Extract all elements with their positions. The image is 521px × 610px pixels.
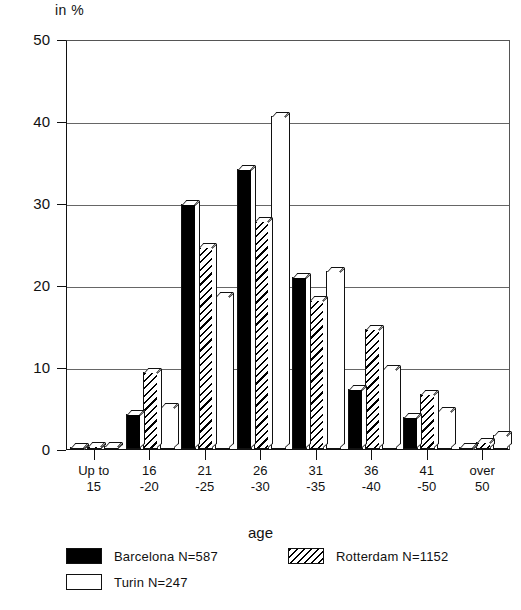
bar-turin-4	[326, 271, 341, 449]
x-axis-tick	[316, 450, 317, 460]
y-axis-tick	[57, 286, 66, 287]
bar-turin-2	[215, 296, 230, 449]
plot-inner	[67, 41, 509, 449]
bar-rotterdam-6	[420, 394, 435, 449]
legend-item-turin: Turin N=247	[66, 574, 188, 590]
legend-swatch-rotterdam	[288, 548, 324, 564]
y-axis-tick-label: 20	[8, 277, 50, 294]
bar-side-face	[306, 273, 311, 448]
x-axis-tick	[482, 450, 483, 460]
bar-turin-6	[437, 411, 452, 449]
bar-rotterdam-4	[309, 300, 324, 449]
y-axis-tick-label: 0	[8, 441, 50, 458]
y-axis-tick	[57, 40, 66, 41]
bar-rotterdam-0	[87, 446, 102, 449]
bar-turin-0	[104, 446, 119, 449]
x-axis-tick	[94, 450, 95, 460]
legend-swatch-turin	[66, 574, 102, 590]
legend-item-barcelona: Barcelona N=587	[66, 548, 218, 564]
y-axis-tick-label: 30	[8, 195, 50, 212]
x-axis-tick	[149, 450, 150, 460]
bar-rotterdam-7	[476, 442, 491, 449]
legend-swatch-barcelona	[66, 548, 102, 564]
y-axis-tick-label: 10	[8, 359, 50, 376]
x-axis-category-label: over50	[442, 463, 521, 495]
bar-barcelona-5	[348, 389, 363, 449]
legend-label-barcelona: Barcelona N=587	[114, 549, 218, 564]
bar-side-face	[157, 368, 162, 448]
bar-rotterdam-1	[143, 372, 158, 449]
legend-item-rotterdam: Rotterdam N=1152	[288, 548, 448, 564]
bar-barcelona-7	[459, 447, 474, 449]
bar-side-face	[362, 386, 367, 448]
bar-side-face	[340, 268, 345, 448]
x-axis-tick	[205, 450, 206, 460]
bar-side-face	[140, 410, 145, 448]
bar-side-face	[268, 218, 273, 448]
y-axis-tick	[57, 368, 66, 369]
x-axis-tick	[371, 450, 372, 460]
bar-side-face	[229, 292, 234, 448]
bar-side-face	[285, 113, 290, 448]
plot-area	[66, 40, 510, 450]
bar-side-face	[251, 166, 256, 448]
bar-rotterdam-2	[198, 247, 213, 449]
bar-barcelona-6	[403, 417, 418, 449]
bar-side-face	[174, 404, 179, 448]
legend-row: Turin N=247	[66, 574, 506, 600]
bar-rotterdam-3	[254, 221, 269, 449]
chart-legend: Barcelona N=587 Rotterdam N=1152 Turin N…	[66, 548, 506, 600]
y-axis-tick-label: 40	[8, 113, 50, 130]
bar-barcelona-3	[237, 169, 252, 449]
bar-side-face	[195, 200, 200, 448]
bar-barcelona-2	[181, 204, 196, 449]
bar-side-face	[323, 296, 328, 448]
x-axis-category-line: over	[442, 463, 521, 479]
bar-barcelona-0	[70, 447, 85, 449]
y-axis-tick	[57, 204, 66, 205]
legend-row: Barcelona N=587 Rotterdam N=1152	[66, 548, 506, 574]
bar-side-face	[212, 244, 217, 448]
bar-turin-1	[160, 407, 175, 449]
bar-rotterdam-5	[365, 329, 380, 449]
bar-side-face	[396, 365, 401, 448]
bar-turin-3	[271, 116, 286, 449]
bar-side-face	[451, 408, 456, 448]
bar-turin-5	[382, 369, 397, 449]
y-axis-tick-label: 50	[8, 31, 50, 48]
bar-barcelona-4	[292, 277, 307, 449]
bar-side-face	[434, 391, 439, 448]
x-axis-tick	[427, 450, 428, 460]
bar-side-face	[507, 432, 512, 448]
y-axis-unit-label: in %	[55, 2, 84, 18]
legend-label-turin: Turin N=247	[114, 575, 188, 590]
bar-chart: in % 01020304050 Up to1516-2021-2526-303…	[0, 0, 521, 610]
y-axis-tick	[57, 122, 66, 123]
bar-barcelona-1	[126, 414, 141, 449]
x-axis-title: age	[0, 524, 521, 541]
bar-side-face	[417, 414, 422, 448]
y-axis-tick	[57, 450, 66, 451]
x-axis-category-line: 50	[442, 479, 521, 495]
legend-label-rotterdam: Rotterdam N=1152	[336, 549, 448, 564]
x-axis-tick	[260, 450, 261, 460]
bar-side-face	[379, 326, 384, 448]
